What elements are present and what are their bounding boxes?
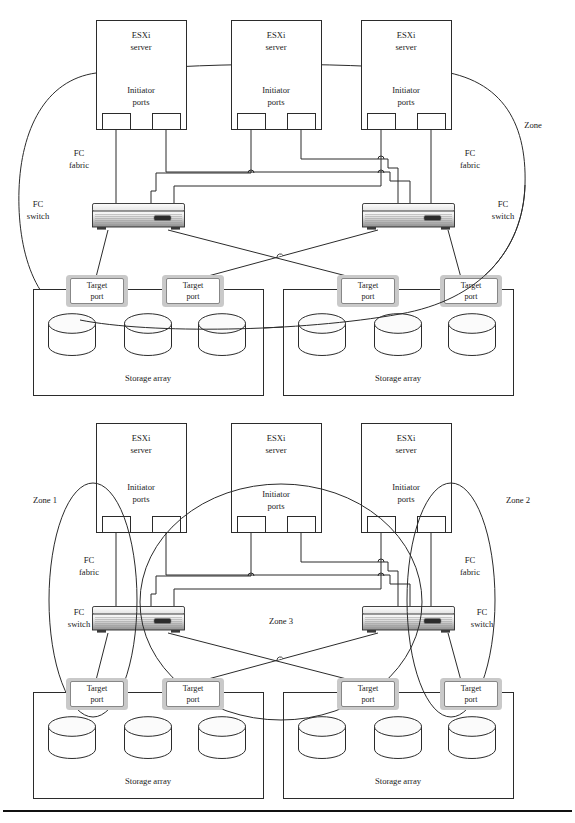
fc-switch-right-line1: FC xyxy=(498,199,509,209)
initiator-subtitle: ports xyxy=(267,501,285,511)
fc-fabric-left-line1: FC xyxy=(74,148,85,158)
esxi-server-1: ESXi server Initiator ports xyxy=(97,21,187,130)
disk-1 xyxy=(49,717,96,759)
link-s3a-sw-left xyxy=(174,130,381,204)
target-port-line2: port xyxy=(361,695,375,704)
initiator-title: Initiator xyxy=(392,482,420,492)
fc-fabric-left-line1: FC xyxy=(84,555,95,565)
esxi-server-1: ESXi server Initiator ports xyxy=(97,424,187,533)
diagram-three-zones: ESXi server Initiator ports ESXi server … xyxy=(33,424,530,799)
storage-array-label: Storage array xyxy=(375,776,422,786)
disk-3 xyxy=(449,717,496,759)
target-port-4[interactable]: Target port xyxy=(440,275,502,307)
disk-1 xyxy=(299,717,346,759)
target-port-1[interactable]: Target port xyxy=(66,275,128,307)
zone-2-label: Zone 2 xyxy=(506,495,530,505)
zone-1-label: Zone 1 xyxy=(33,495,57,505)
initiator-subtitle: ports xyxy=(132,97,150,107)
fc-switch-left-line2: switch xyxy=(68,619,91,629)
esxi-subtitle: server xyxy=(396,42,417,52)
fc-switch-left-line2: switch xyxy=(27,211,50,221)
esxi-server-3: ESXi server Initiator ports xyxy=(362,21,452,130)
target-port-line1: Target xyxy=(461,281,482,290)
esxi-title: ESXi xyxy=(267,433,286,443)
esxi-title: ESXi xyxy=(132,433,151,443)
initiator-port-b xyxy=(418,517,446,533)
link-swleft-tp3 xyxy=(168,633,370,685)
initiator-port-b xyxy=(153,114,181,130)
zone-3-label: Zone 3 xyxy=(269,616,293,626)
disk-3 xyxy=(199,717,246,759)
target-port-line1: Target xyxy=(461,684,482,693)
fc-switch-left-line1: FC xyxy=(74,607,85,617)
initiator-port-b xyxy=(153,517,181,533)
fc-switch-right-line2: switch xyxy=(492,211,515,221)
target-port-line2: port xyxy=(361,292,375,301)
target-port-line1: Target xyxy=(183,684,204,693)
esxi-subtitle: server xyxy=(131,42,152,52)
fc-switch-left[interactable] xyxy=(93,607,185,633)
link-swright-tp2 xyxy=(186,230,378,282)
disk-2 xyxy=(375,717,422,759)
disk-1 xyxy=(299,314,346,356)
fc-fabric-right-line1: FC xyxy=(465,555,476,565)
esxi-subtitle: server xyxy=(266,42,287,52)
initiator-port-b xyxy=(418,114,446,130)
storage-array-label: Storage array xyxy=(375,373,422,383)
target-port-line1: Target xyxy=(87,281,108,290)
initiator-title: Initiator xyxy=(262,489,290,499)
target-port-line2: port xyxy=(90,292,104,301)
initiator-port-a xyxy=(368,114,396,130)
initiator-subtitle: ports xyxy=(397,97,415,107)
target-port-line2: port xyxy=(464,695,478,704)
storage-array-label: Storage array xyxy=(125,373,172,383)
fc-switch-left[interactable] xyxy=(93,204,185,230)
initiator-port-b xyxy=(288,114,316,130)
fc-fabric-left-line2: fabric xyxy=(69,160,89,170)
esxi-server-3: ESXi server Initiator ports xyxy=(362,424,452,533)
target-port-line1: Target xyxy=(183,281,204,290)
initiator-title: Initiator xyxy=(262,85,290,95)
initiator-port-a xyxy=(238,517,266,533)
fc-fabric-right-line1: FC xyxy=(465,148,476,158)
target-port-3[interactable]: Target port xyxy=(337,275,399,307)
esxi-server-2: ESXi server Initiator ports xyxy=(232,424,322,533)
target-port-line2: port xyxy=(464,292,478,301)
fc-fabric-right-line2: fabric xyxy=(460,160,480,170)
target-port-3[interactable]: Target port xyxy=(337,678,399,710)
fc-switch-right-line1: FC xyxy=(477,607,488,617)
initiator-port-a xyxy=(238,114,266,130)
fc-switch-right-line2: switch xyxy=(471,619,494,629)
disk-3 xyxy=(449,314,496,356)
link-s1b-sw-right xyxy=(166,130,410,204)
target-port-4[interactable]: Target port xyxy=(440,678,502,710)
diagram-single-zone: Zone ESXi server Initiator ports ESXi se… xyxy=(19,21,542,396)
disk-2 xyxy=(125,717,172,759)
link-swleft-tp3 xyxy=(168,230,370,282)
fc-switch-right[interactable] xyxy=(363,204,455,230)
esxi-subtitle: server xyxy=(266,445,287,455)
target-port-line2: port xyxy=(186,292,200,301)
link-s2b-sw-right xyxy=(301,533,398,607)
link-s3a-sw-left xyxy=(174,533,381,607)
target-port-line1: Target xyxy=(358,281,379,290)
disk-1 xyxy=(49,314,96,356)
initiator-title: Initiator xyxy=(127,482,155,492)
esxi-server-2: ESXi server Initiator ports xyxy=(232,21,322,130)
link-s1b-sw-right xyxy=(166,533,410,607)
target-port-2[interactable]: Target port xyxy=(162,678,224,710)
initiator-title: Initiator xyxy=(392,85,420,95)
esxi-title: ESXi xyxy=(132,30,151,40)
storage-array-label: Storage array xyxy=(125,776,172,786)
figure-canvas: Zone ESXi server Initiator ports ESXi se… xyxy=(0,0,575,823)
target-port-2[interactable]: Target port xyxy=(162,275,224,307)
target-port-line1: Target xyxy=(87,684,108,693)
initiator-port-b xyxy=(288,517,316,533)
esxi-title: ESXi xyxy=(397,30,416,40)
initiator-port-a xyxy=(103,114,131,130)
fc-zoning-figure: Zone ESXi server Initiator ports ESXi se… xyxy=(0,0,575,823)
esxi-title: ESXi xyxy=(397,433,416,443)
target-port-1[interactable]: Target port xyxy=(66,678,128,710)
target-port-line2: port xyxy=(90,695,104,704)
esxi-subtitle: server xyxy=(131,445,152,455)
